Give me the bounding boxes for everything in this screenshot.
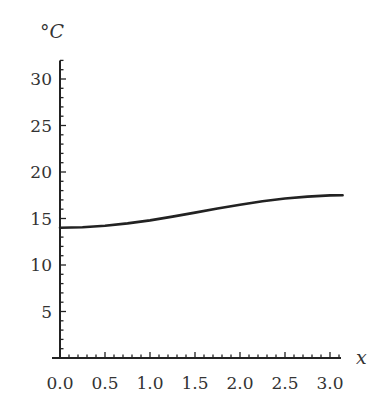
x-tick-label: 0.0 bbox=[46, 373, 73, 393]
plot-area bbox=[60, 195, 343, 228]
x-axis-label: x bbox=[356, 346, 367, 368]
y-tick-label: 30 bbox=[30, 69, 52, 89]
y-tick-label: 20 bbox=[30, 162, 52, 182]
x-tick-label: 3.0 bbox=[316, 373, 343, 393]
y-tick-label: 10 bbox=[30, 255, 52, 275]
x-tick-label: 1.5 bbox=[181, 373, 208, 393]
x-tick-label: 1.0 bbox=[136, 373, 163, 393]
x-tick-label: 2.0 bbox=[226, 373, 253, 393]
line-chart: °C x 0.00.51.01.52.02.53.051015202530 bbox=[0, 0, 383, 408]
y-tick-label: 15 bbox=[30, 209, 52, 229]
y-axis-label: °C bbox=[40, 20, 65, 42]
x-tick-label: 0.5 bbox=[91, 373, 118, 393]
series-line-temperature bbox=[60, 195, 343, 228]
y-tick-label: 5 bbox=[41, 302, 52, 322]
y-tick-label: 25 bbox=[30, 116, 52, 136]
x-tick-label: 2.5 bbox=[271, 373, 298, 393]
